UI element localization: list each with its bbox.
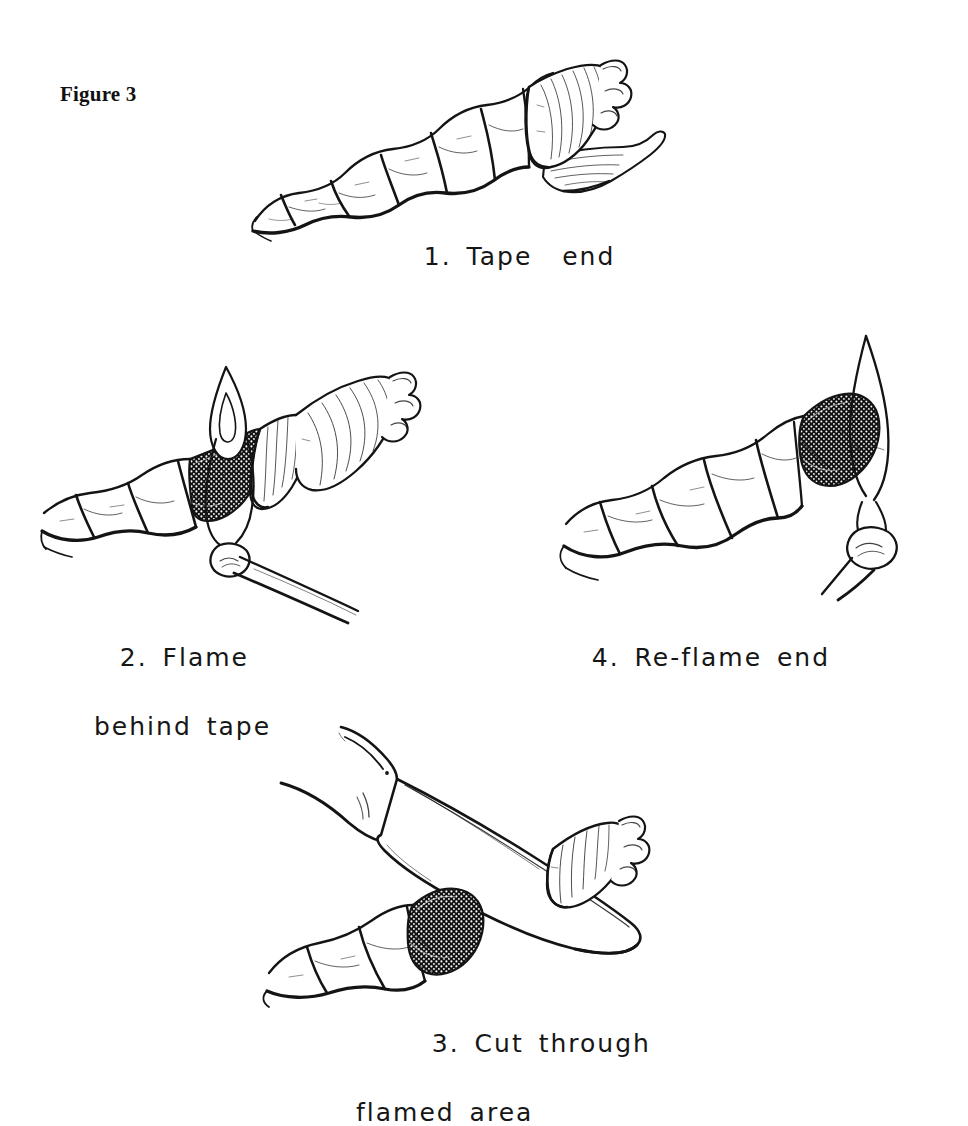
three-strand-rope xyxy=(41,459,196,557)
panel-4-drawing xyxy=(540,320,960,600)
figure-title: Figure 3 xyxy=(60,82,136,107)
panel-1-caption: 1. Tape end xyxy=(364,205,615,309)
panel-2-caption-line-1: 2. Flame xyxy=(120,643,249,672)
panel-3-drawing xyxy=(245,715,675,1000)
panel-4-caption-line-1: 4. Re-flame end xyxy=(592,643,830,672)
knife-handle xyxy=(281,727,400,841)
panel-1-caption-line-1: 1. Tape end xyxy=(424,242,616,271)
panel-4-caption: 4. Re-flame end xyxy=(532,606,830,710)
match xyxy=(822,527,897,600)
panel-3-caption: 3. Cut through flamed area xyxy=(372,992,651,1126)
melted-stipple-end xyxy=(799,394,879,486)
panel-4-reflame-end xyxy=(540,320,960,600)
panel-2-caption: 2. Flame behind tape xyxy=(60,606,271,813)
melted-stipple-band xyxy=(408,889,484,975)
panel-2-caption-line-2: behind tape xyxy=(60,710,271,745)
three-strand-rope xyxy=(560,416,804,580)
panel-2-drawing xyxy=(40,335,470,625)
panel-3-caption-line-1: 3. Cut through xyxy=(432,1029,651,1058)
panel-3-cut-through-flamed-area xyxy=(245,715,675,1000)
panel-2-flame-behind-tape xyxy=(40,335,470,625)
figure-sheet: Figure 3 xyxy=(0,0,968,1126)
panel-3-caption-line-2: flamed area xyxy=(372,1096,651,1126)
